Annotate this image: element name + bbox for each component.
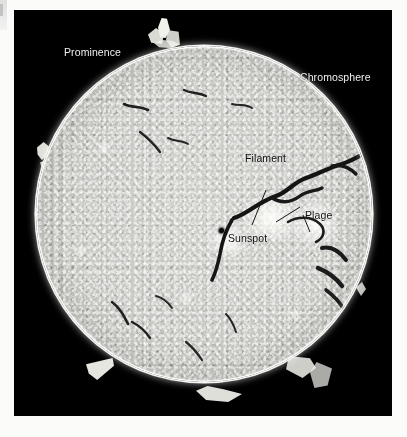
label-sunspot: Sunspot (228, 232, 267, 244)
label-plage: Plage (305, 209, 332, 221)
label-chromosphere: Chromosphere (300, 71, 371, 83)
label-prominence: Prominence (64, 46, 121, 58)
label-filament: Filament (245, 152, 286, 164)
photo-area: Prominence Chromosphere Filament Plage S… (14, 10, 392, 416)
scan-edge-artifact-inner (0, 4, 3, 16)
solar-photograph-page: Prominence Chromosphere Filament Plage S… (0, 0, 407, 437)
